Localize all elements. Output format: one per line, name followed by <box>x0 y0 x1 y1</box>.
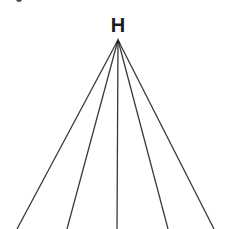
apex-marker <box>116 38 121 44</box>
node-label-h: H <box>109 14 127 36</box>
tree-edge-3 <box>117 40 118 229</box>
tree-edge-5 <box>118 40 214 229</box>
tree-edges <box>17 40 214 229</box>
tree-edge-2 <box>67 40 118 229</box>
tree-edge-1 <box>17 40 118 229</box>
tree-edge-4 <box>118 40 168 229</box>
